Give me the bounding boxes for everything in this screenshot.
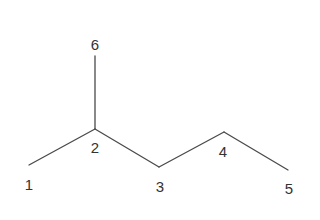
atom-label-4: 4	[219, 143, 227, 160]
bond-3-4	[159, 132, 224, 167]
atom-label-1: 1	[25, 176, 33, 193]
atom-label-2: 2	[91, 139, 99, 156]
bonds	[29, 56, 288, 170]
atom-label-6: 6	[91, 36, 99, 53]
bond-2-3	[95, 129, 159, 167]
atom-label-5: 5	[285, 180, 293, 197]
bond-1-2	[29, 129, 95, 165]
skeletal-formula-diagram: 1 2 3 4 5 6	[0, 0, 320, 220]
atom-label-3: 3	[156, 178, 164, 195]
bond-4-5	[224, 132, 288, 170]
atom-labels: 1 2 3 4 5 6	[25, 36, 293, 197]
